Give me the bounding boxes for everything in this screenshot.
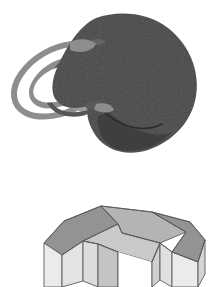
figure-root bbox=[0, 0, 212, 287]
blob-body bbox=[52, 13, 196, 152]
side-face-front-left-2 bbox=[83, 241, 98, 287]
side-face-right-front bbox=[160, 243, 172, 287]
shape-handled-blob bbox=[14, 13, 197, 152]
shape-faceted-horseshoe-prism bbox=[44, 206, 205, 287]
geometry-figure bbox=[0, 0, 212, 287]
